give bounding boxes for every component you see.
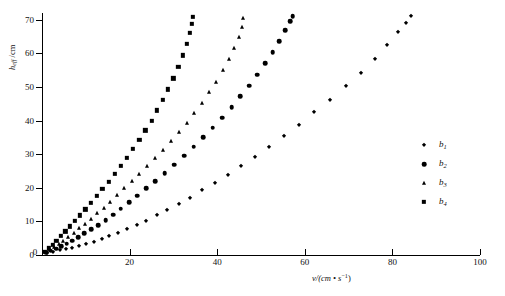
data-point-b2 [135, 193, 140, 198]
data-point-b4 [191, 15, 195, 19]
data-point-b4 [166, 87, 170, 91]
data-point-b2 [119, 206, 124, 211]
data-point-b1 [212, 181, 217, 186]
data-point-b1 [63, 247, 68, 252]
data-point-b2 [162, 171, 167, 176]
data-point-b1 [296, 122, 301, 127]
data-point-b1 [70, 245, 75, 250]
data-point-b2 [103, 218, 108, 223]
data-point-b3 [200, 101, 204, 105]
data-point-b3 [61, 238, 65, 242]
data-point-b2 [144, 186, 149, 191]
data-point-b3 [177, 130, 181, 134]
data-point-b4 [83, 207, 87, 211]
data-point-b1 [282, 134, 287, 139]
data-point-b4 [59, 234, 63, 238]
x-tick-label: 60 [300, 258, 309, 267]
data-point-b3 [83, 222, 87, 226]
data-point-b2 [271, 50, 276, 55]
data-point-b3 [232, 46, 236, 50]
data-point-b4 [95, 194, 99, 198]
data-point-b4 [184, 42, 188, 46]
data-point-b3 [207, 90, 211, 94]
legend-marker-square-icon [422, 200, 426, 204]
data-point-b3 [137, 172, 141, 176]
data-point-b1 [373, 56, 378, 61]
data-point-b4 [73, 219, 77, 223]
legend-marker-triangle-icon [422, 181, 426, 185]
data-point-b2 [82, 231, 87, 236]
data-point-b1 [253, 155, 258, 160]
data-point-b3 [72, 231, 76, 235]
data-point-b4 [143, 128, 147, 132]
data-point-b4 [50, 242, 54, 246]
data-point-b4 [68, 224, 72, 228]
data-point-b4 [171, 76, 175, 80]
data-point-b1 [91, 239, 96, 244]
data-point-b4 [125, 155, 129, 159]
y-tick-label: 20 [25, 183, 34, 192]
data-point-b4 [106, 180, 110, 184]
data-point-b1 [176, 202, 181, 207]
x-tick-label: 100 [473, 258, 487, 267]
data-point-b1 [395, 30, 400, 35]
data-point-b1 [409, 14, 414, 19]
x-tick-label: 20 [125, 258, 134, 267]
data-point-b2 [172, 162, 177, 167]
data-point-b3 [214, 79, 218, 83]
data-point-b3 [185, 120, 189, 124]
data-point-b1 [154, 213, 159, 218]
legend-label: b2 [439, 158, 447, 169]
data-point-b2 [89, 227, 94, 232]
data-point-b3 [145, 164, 149, 168]
data-point-b2 [127, 200, 132, 205]
y-tick-label: 60 [25, 49, 34, 58]
data-point-b2 [220, 115, 225, 120]
data-point-b4 [63, 229, 67, 233]
data-point-b2 [76, 235, 81, 240]
y-axis-title-sub: eff [11, 60, 17, 66]
data-point-b1 [385, 43, 390, 48]
data-point-b2 [263, 61, 268, 66]
data-point-b1 [134, 223, 139, 228]
data-point-b4 [187, 31, 191, 35]
y-axis-title-base: h [7, 66, 17, 70]
data-point-b1 [225, 173, 230, 178]
data-point-b3 [122, 186, 126, 190]
x-axis-title: v/(cm • s−1) [312, 273, 351, 283]
data-point-b1 [99, 237, 104, 242]
x-tick-label: 40 [213, 258, 222, 267]
data-point-b1 [200, 188, 205, 193]
data-point-b1 [144, 218, 149, 223]
data-point-b3 [77, 226, 81, 230]
data-point-b2 [182, 154, 187, 159]
data-point-b3 [95, 211, 99, 215]
data-point-b1 [188, 196, 193, 201]
legend-marker-circle-icon [422, 162, 427, 167]
data-point-b3 [130, 179, 134, 183]
data-point-b4 [119, 164, 123, 168]
y-axis-title-unit: /cm [7, 45, 17, 60]
legend-label: b3 [439, 177, 447, 188]
data-point-b3 [169, 139, 173, 143]
data-point-b4 [149, 118, 153, 122]
data-point-b3 [241, 16, 245, 20]
legend-label: b1 [439, 139, 447, 150]
data-point-b4 [100, 187, 104, 191]
data-point-b2 [211, 125, 216, 130]
data-point-b1 [359, 71, 364, 76]
data-point-b3 [115, 193, 119, 197]
x-tick-label: 0 [33, 248, 38, 257]
y-tick-label: 30 [25, 150, 34, 159]
chart-figure: 010203040506070 020406080100 heff /cm v/… [0, 0, 505, 296]
data-point-b2 [201, 135, 206, 140]
data-point-b1 [165, 208, 170, 213]
y-axis-title: heff /cm [7, 27, 18, 87]
y-tick-label: 50 [25, 82, 34, 91]
y-tick-label: 70 [25, 15, 34, 24]
x-axis-line [42, 255, 480, 256]
data-point-b1 [403, 21, 408, 26]
data-point-b1 [312, 110, 317, 115]
data-point-b1 [267, 145, 272, 150]
data-point-b3 [66, 235, 70, 239]
